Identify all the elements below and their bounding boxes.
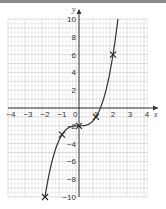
origin-label: 0 [73, 110, 78, 119]
svg-text:−3: −3 [23, 110, 33, 119]
svg-text:2: 2 [111, 110, 116, 119]
svg-text:−1: −1 [57, 110, 67, 119]
svg-text:3: 3 [128, 110, 133, 119]
chart: −4−3−2−11234108642−2−4−6−8−10 x y 0 [0, 0, 166, 209]
svg-text:−6: −6 [67, 157, 77, 166]
svg-text:4: 4 [72, 68, 77, 77]
x-axis-label: x [153, 110, 158, 119]
svg-text:4: 4 [145, 110, 150, 119]
svg-text:−4: −4 [6, 110, 16, 119]
svg-text:−8: −8 [67, 175, 77, 184]
svg-text:−2: −2 [40, 110, 50, 119]
svg-text:−4: −4 [67, 140, 77, 149]
y-axis-label: y [71, 5, 76, 14]
svg-text:8: 8 [72, 33, 77, 42]
svg-text:6: 6 [72, 51, 77, 60]
svg-text:−10: −10 [62, 193, 76, 202]
svg-text:10: 10 [67, 15, 76, 24]
svg-text:2: 2 [72, 86, 77, 95]
